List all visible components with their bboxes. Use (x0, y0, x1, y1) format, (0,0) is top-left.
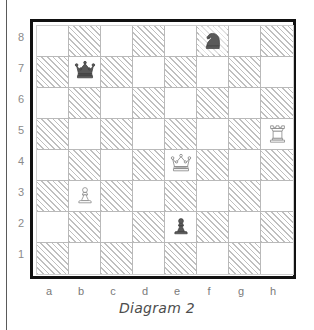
board-square-a1[interactable] (37, 243, 69, 274)
board-square-g2[interactable] (229, 212, 261, 243)
black-pawn-icon-glyph (168, 213, 194, 239)
board-square-h3[interactable] (261, 181, 293, 212)
board-square-a7[interactable] (37, 57, 69, 88)
black-pawn-icon[interactable] (166, 211, 196, 241)
board-square-a2[interactable] (37, 212, 69, 243)
board-square-g4[interactable] (229, 150, 261, 181)
board-square-b8[interactable] (69, 26, 101, 57)
board-square-d1[interactable] (133, 243, 165, 274)
board-square-b2[interactable] (69, 212, 101, 243)
board-square-g3[interactable] (229, 181, 261, 212)
white-queen-icon-glyph (167, 150, 195, 178)
board-square-d7[interactable] (133, 57, 165, 88)
rank-label-2: 2 (14, 208, 28, 239)
board-square-d6[interactable] (133, 88, 165, 119)
white-queen-icon[interactable] (166, 149, 196, 179)
board-square-c7[interactable] (101, 57, 133, 88)
rank-label-6: 6 (14, 84, 28, 115)
board-square-b1[interactable] (69, 243, 101, 274)
rank-label-8: 8 (14, 22, 28, 53)
board-square-e2[interactable] (165, 212, 197, 243)
board-square-f8[interactable] (197, 26, 229, 57)
board-square-b7[interactable] (69, 57, 101, 88)
board-square-g7[interactable] (229, 57, 261, 88)
black-queen-icon-glyph (71, 57, 99, 85)
board-square-f3[interactable] (197, 181, 229, 212)
white-rook-icon[interactable] (262, 118, 292, 148)
board-square-g6[interactable] (229, 88, 261, 119)
board-square-c5[interactable] (101, 119, 133, 150)
board-square-h7[interactable] (261, 57, 293, 88)
file-label-g: g (225, 283, 257, 299)
rank-label-7: 7 (14, 53, 28, 84)
black-queen-icon[interactable] (70, 56, 100, 86)
piece-backdrop (263, 119, 291, 147)
black-knight-icon-glyph (199, 27, 226, 54)
board-square-g1[interactable] (229, 243, 261, 274)
board-square-h5[interactable] (261, 119, 293, 150)
board-square-e6[interactable] (165, 88, 197, 119)
board-square-f6[interactable] (197, 88, 229, 119)
board-square-e5[interactable] (165, 119, 197, 150)
board-square-c2[interactable] (101, 212, 133, 243)
board-square-a6[interactable] (37, 88, 69, 119)
board-square-e1[interactable] (165, 243, 197, 274)
file-label-f: f (193, 283, 225, 299)
file-labels: abcdefgh (33, 283, 289, 299)
board-square-d2[interactable] (133, 212, 165, 243)
file-label-c: c (97, 283, 129, 299)
board-square-a3[interactable] (37, 181, 69, 212)
rank-label-3: 3 (14, 177, 28, 208)
board-square-h1[interactable] (261, 243, 293, 274)
figure-caption: Diagram 2 (0, 300, 314, 316)
file-label-b: b (65, 283, 97, 299)
white-pawn-icon-glyph (72, 182, 98, 208)
rank-labels: 87654321 (14, 22, 28, 276)
board-square-a5[interactable] (37, 119, 69, 150)
board-square-b6[interactable] (69, 88, 101, 119)
board-square-h6[interactable] (261, 88, 293, 119)
file-label-h: h (257, 283, 289, 299)
piece-backdrop (71, 57, 99, 85)
black-knight-icon[interactable] (198, 25, 228, 55)
board-square-b4[interactable] (69, 150, 101, 181)
file-label-e: e (161, 283, 193, 299)
board-square-c8[interactable] (101, 26, 133, 57)
file-label-d: d (129, 283, 161, 299)
chess-board-grid (36, 25, 294, 275)
board-square-d5[interactable] (133, 119, 165, 150)
rank-label-4: 4 (14, 146, 28, 177)
board-square-g8[interactable] (229, 26, 261, 57)
board-square-f4[interactable] (197, 150, 229, 181)
board-square-h8[interactable] (261, 26, 293, 57)
board-square-b5[interactable] (69, 119, 101, 150)
board-square-e4[interactable] (165, 150, 197, 181)
board-square-g5[interactable] (229, 119, 261, 150)
board-square-d8[interactable] (133, 26, 165, 57)
board-square-a8[interactable] (37, 26, 69, 57)
piece-backdrop (71, 181, 99, 209)
board-square-d4[interactable] (133, 150, 165, 181)
board-square-c6[interactable] (101, 88, 133, 119)
board-square-f7[interactable] (197, 57, 229, 88)
board-square-a4[interactable] (37, 150, 69, 181)
board-square-d3[interactable] (133, 181, 165, 212)
board-square-b3[interactable] (69, 181, 101, 212)
board-square-f2[interactable] (197, 212, 229, 243)
board-square-e7[interactable] (165, 57, 197, 88)
piece-backdrop (199, 26, 227, 54)
board-square-f1[interactable] (197, 243, 229, 274)
board-square-c1[interactable] (101, 243, 133, 274)
board-square-e3[interactable] (165, 181, 197, 212)
board-square-e8[interactable] (165, 26, 197, 57)
board-square-h2[interactable] (261, 212, 293, 243)
chess-board-frame (30, 19, 296, 279)
board-square-f5[interactable] (197, 119, 229, 150)
board-square-h4[interactable] (261, 150, 293, 181)
white-pawn-icon[interactable] (70, 180, 100, 210)
rank-label-5: 5 (14, 115, 28, 146)
file-label-a: a (33, 283, 65, 299)
board-square-c3[interactable] (101, 181, 133, 212)
chess-diagram-figure: 87654321 (0, 0, 314, 330)
board-square-c4[interactable] (101, 150, 133, 181)
